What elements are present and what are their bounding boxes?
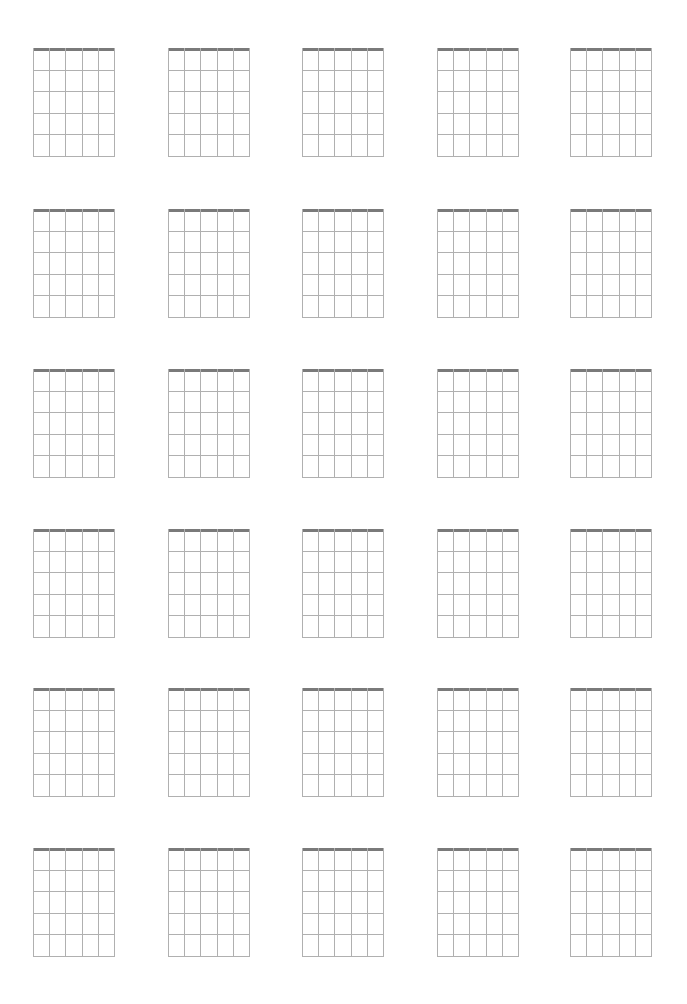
nut-line [168, 848, 250, 851]
string-line [453, 369, 454, 478]
string-line [635, 529, 636, 638]
string-line [217, 369, 218, 478]
string-line [619, 369, 620, 478]
fret-line [437, 710, 519, 711]
string-line [570, 48, 571, 157]
fret-line [33, 134, 115, 135]
string-line [233, 529, 234, 638]
string-line [602, 848, 603, 957]
chord-diagram [437, 529, 519, 638]
string-line [437, 48, 438, 157]
nut-line [33, 209, 115, 212]
fret-line [570, 913, 652, 914]
fret-line [33, 615, 115, 616]
string-line [168, 848, 169, 957]
nut-line [168, 369, 250, 372]
string-line [33, 48, 34, 157]
string-line [518, 529, 519, 638]
string-line [602, 529, 603, 638]
fret-line [570, 274, 652, 275]
string-line [502, 848, 503, 957]
string-line [602, 369, 603, 478]
fret-line [168, 156, 250, 157]
fret-line [437, 594, 519, 595]
fret-line [302, 70, 384, 71]
fret-line [570, 956, 652, 957]
string-line [635, 209, 636, 318]
fret-line [302, 594, 384, 595]
fret-line [437, 134, 519, 135]
string-line [351, 369, 352, 478]
string-line [33, 369, 34, 478]
string-line [200, 848, 201, 957]
string-line [184, 688, 185, 797]
string-line [114, 529, 115, 638]
fret-line [168, 753, 250, 754]
string-line [249, 209, 250, 318]
nut-line [437, 48, 519, 51]
string-line [98, 209, 99, 318]
fret-line [437, 753, 519, 754]
string-line [334, 209, 335, 318]
fret-line [33, 252, 115, 253]
fret-line [302, 412, 384, 413]
string-line [114, 848, 115, 957]
string-line [318, 369, 319, 478]
string-line [635, 848, 636, 957]
fret-line [168, 317, 250, 318]
nut-line [168, 529, 250, 532]
string-line [184, 529, 185, 638]
fret-line [33, 231, 115, 232]
nut-line [168, 48, 250, 51]
fret-line [302, 274, 384, 275]
string-line [469, 209, 470, 318]
fret-line [302, 956, 384, 957]
string-line [318, 529, 319, 638]
fret-line [570, 252, 652, 253]
string-line [33, 209, 34, 318]
string-line [586, 688, 587, 797]
fret-line [437, 956, 519, 957]
string-line [651, 688, 652, 797]
string-line [65, 209, 66, 318]
fret-line [302, 391, 384, 392]
string-line [200, 48, 201, 157]
string-line [486, 529, 487, 638]
string-line [351, 688, 352, 797]
string-line [619, 529, 620, 638]
fret-line [570, 70, 652, 71]
string-line [502, 688, 503, 797]
fret-line [570, 710, 652, 711]
string-line [302, 369, 303, 478]
string-line [518, 848, 519, 957]
string-line [184, 48, 185, 157]
string-line [168, 688, 169, 797]
fret-line [570, 731, 652, 732]
string-line [65, 688, 66, 797]
fret-line [437, 891, 519, 892]
string-line [302, 529, 303, 638]
string-line [302, 848, 303, 957]
fret-line [302, 295, 384, 296]
fret-line [168, 295, 250, 296]
fret-line [168, 913, 250, 914]
chord-diagram [302, 48, 384, 157]
string-line [635, 48, 636, 157]
string-line [469, 848, 470, 957]
fret-line [168, 615, 250, 616]
string-line [98, 369, 99, 478]
fret-line [302, 572, 384, 573]
string-line [367, 369, 368, 478]
fret-line [168, 91, 250, 92]
fret-line [168, 891, 250, 892]
fret-line [437, 477, 519, 478]
string-line [437, 209, 438, 318]
fret-line [570, 455, 652, 456]
chord-diagram [168, 48, 250, 157]
string-line [98, 529, 99, 638]
fret-line [33, 551, 115, 552]
blank-chord-chart-sheet [0, 0, 687, 1004]
string-line [184, 369, 185, 478]
nut-line [33, 688, 115, 691]
fret-line [33, 934, 115, 935]
